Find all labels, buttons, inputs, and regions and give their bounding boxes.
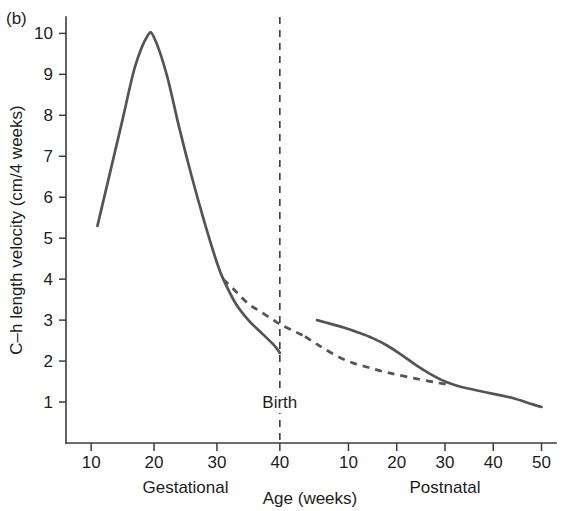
x-axis-tick-label: 30	[436, 453, 455, 472]
data-series-layer	[97, 32, 541, 407]
y-axis-tick-label: 8	[44, 106, 53, 125]
x-axis-title: Age (weeks)	[263, 489, 357, 508]
x-axis-tick-label: 40	[270, 453, 289, 472]
x-axis-group-label: Postnatal	[410, 478, 481, 497]
y-axis-tick-label: 7	[44, 147, 53, 166]
panel-label: (b)	[6, 9, 27, 28]
x-axis-tick-label: 10	[82, 453, 101, 472]
y-axis-tick-label: 9	[44, 65, 53, 84]
x-axis-tick-label: 10	[339, 453, 358, 472]
y-axis-title: C–h length velocity (cm/4 weeks)	[7, 105, 26, 354]
y-axis: 12345678910	[34, 17, 66, 443]
x-axis-tick-label: 20	[387, 453, 406, 472]
y-axis-tick-label: 5	[44, 229, 53, 248]
y-axis-tick-label: 3	[44, 311, 53, 330]
birth-label: Birth	[262, 393, 297, 412]
series-gestational-velocity-dashed	[223, 279, 305, 336]
series-gestational-velocity-solid	[97, 32, 279, 353]
annotation-layer: Birth	[257, 17, 303, 443]
y-axis-tick-label: 1	[44, 393, 53, 412]
x-axis-tick-label: 30	[207, 453, 226, 472]
chart-canvas: (b) 12345678910 C–h length velocity (cm/…	[0, 0, 566, 511]
figure-panel-b: (b) 12345678910 C–h length velocity (cm/…	[0, 0, 566, 511]
y-axis-tick-label: 4	[44, 270, 53, 289]
x-axis-group-label: Gestational	[143, 478, 229, 497]
x-axis-tick-label: 40	[484, 453, 503, 472]
series-postnatal-velocity-dashed	[305, 337, 450, 385]
y-axis-tick-label: 6	[44, 188, 53, 207]
y-axis-tick-label: 2	[44, 352, 53, 371]
x-axis-tick-label: 20	[145, 453, 164, 472]
x-axis-tick-label: 50	[532, 453, 551, 472]
y-axis-tick-label: 10	[34, 24, 53, 43]
